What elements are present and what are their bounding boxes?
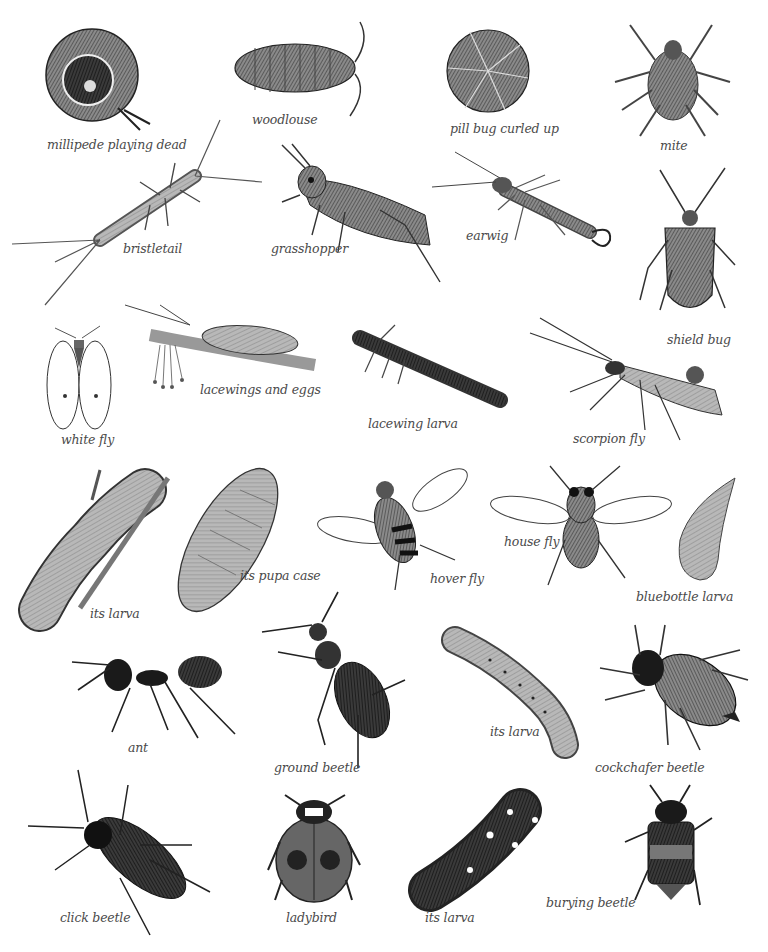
caption-ladybird-larva: its larva xyxy=(425,910,475,925)
caption-click-beetle: click beetle xyxy=(60,910,130,925)
caption-scorpion-fly: scorpion fly xyxy=(573,431,645,446)
caption-woodlouse: woodlouse xyxy=(252,112,317,127)
lacewings-illustration xyxy=(125,305,315,389)
pill-bug-illustration xyxy=(447,30,529,112)
lacewing-larva-illustration xyxy=(360,325,500,400)
caption-cockchafer: cockchafer beetle xyxy=(595,760,704,775)
caption-house-fly: house fly xyxy=(504,534,559,549)
caption-burying-beetle: burying beetle xyxy=(546,895,636,910)
earwig-illustration xyxy=(432,152,610,246)
caption-cockchafer-larva: its larva xyxy=(490,724,540,739)
caption-hover-fly: hover fly xyxy=(430,571,484,586)
caption-white-fly: white fly xyxy=(61,432,114,447)
hover-fly-pupa-illustration xyxy=(159,454,298,627)
caption-hover-fly-pupa: its pupa case xyxy=(240,568,321,583)
caption-ant: ant xyxy=(128,740,148,755)
ground-beetle-illustration xyxy=(262,592,405,768)
caption-millipede: millipede playing dead xyxy=(47,137,187,152)
caption-shield-bug: shield bug xyxy=(667,332,731,347)
insect-illustration-plate: millipede playing dead woodlouse pill bu… xyxy=(0,0,768,952)
caption-lacewing-larva: lacewing larva xyxy=(368,416,458,431)
cockchafer-illustration xyxy=(600,625,749,750)
hover-fly-larva-illustration xyxy=(40,470,168,610)
caption-ladybird: ladybird xyxy=(286,910,337,925)
mite-illustration xyxy=(615,25,730,136)
shield-bug-illustration xyxy=(640,168,735,310)
ladybird-larva-illustration xyxy=(430,809,538,890)
white-fly-illustration xyxy=(47,326,111,429)
caption-lacewings: lacewings and eggs xyxy=(200,382,321,397)
caption-grasshopper: grasshopper xyxy=(271,241,348,256)
bluebottle-larva-illustration xyxy=(679,478,735,580)
house-fly-illustration xyxy=(489,466,674,585)
millipede-illustration xyxy=(46,29,150,130)
caption-ground-beetle: ground beetle xyxy=(274,760,360,775)
caption-mite: mite xyxy=(660,138,687,153)
caption-bluebottle-larva: bluebottle larva xyxy=(636,589,733,604)
caption-hover-fly-larva: its larva xyxy=(90,606,140,621)
caption-bristletail: bristletail xyxy=(123,241,182,256)
ant-illustration xyxy=(72,656,235,738)
ladybird-illustration xyxy=(268,795,360,902)
caption-pill-bug: pill bug curled up xyxy=(450,121,559,136)
grasshopper-illustration xyxy=(282,144,440,282)
woodlouse-illustration xyxy=(235,22,364,116)
burying-beetle-illustration xyxy=(625,785,712,905)
caption-earwig: earwig xyxy=(466,228,508,243)
